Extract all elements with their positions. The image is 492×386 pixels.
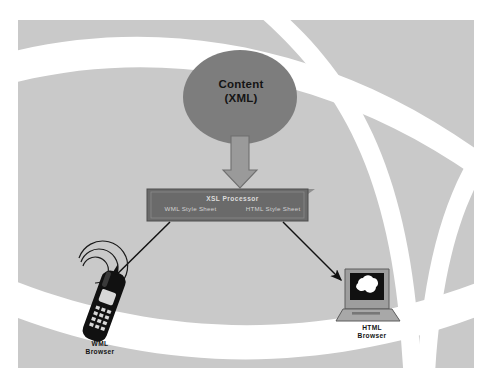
content-line-1: Content [176,77,306,91]
wml-browser-label: WML Browser [55,340,145,356]
stylesheet-html: HTML Style Sheet [246,205,301,213]
content-line-2: (XML) [176,91,306,105]
wml-label-line-1: WML [55,340,145,348]
html-browser-label: HTML Browser [327,324,417,340]
wml-label-line-2: Browser [55,348,145,356]
diagram-canvas: Content (XML) XSL Processor WML Style Sh… [0,0,492,386]
html-label-line-1: HTML [327,324,417,332]
diagram-panel [18,20,474,368]
background-curves [18,20,474,368]
html-label-line-2: Browser [327,332,417,340]
content-ellipse-label: Content (XML) [176,77,306,106]
processor-stylesheets: WML Style Sheet HTML Style Sheet [150,205,315,213]
processor-title: XSL Processor [150,195,315,203]
stylesheet-wml: WML Style Sheet [165,205,217,213]
